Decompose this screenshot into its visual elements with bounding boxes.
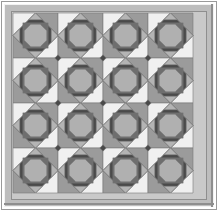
quilt-block — [58, 13, 103, 58]
quilt-block — [103, 13, 148, 58]
block-center-octagon — [114, 114, 137, 137]
quilt-block — [13, 13, 58, 58]
quilt-block — [13, 148, 58, 193]
quilt-block — [13, 58, 58, 103]
block-center-octagon — [159, 69, 182, 92]
block-center-octagon — [24, 24, 47, 47]
quilt-block — [148, 103, 193, 148]
block-center-octagon — [114, 24, 137, 47]
block-center-octagon — [114, 159, 137, 182]
quilt-block — [103, 58, 148, 103]
block-center-octagon — [114, 69, 137, 92]
quilt-block — [103, 103, 148, 148]
block-center-octagon — [159, 159, 182, 182]
block-center-octagon — [69, 69, 92, 92]
border-band-right-shadow — [211, 4, 213, 207]
border-band-bottom-shadow — [4, 203, 214, 205]
quilt-block — [103, 148, 148, 193]
block-center-octagon — [159, 114, 182, 137]
quilt-block — [58, 148, 103, 193]
quilt-block — [148, 13, 193, 58]
quilt-field — [12, 12, 206, 199]
block-center-octagon — [24, 114, 47, 137]
quilt-canvas — [0, 0, 218, 211]
quilt-block — [58, 103, 103, 148]
quilt-image — [0, 0, 218, 211]
block-center-octagon — [24, 159, 47, 182]
block-center-octagon — [69, 24, 92, 47]
block-center-octagon — [159, 24, 182, 47]
quilt-block — [58, 58, 103, 103]
block-center-octagon — [69, 114, 92, 137]
quilt-block — [148, 58, 193, 103]
block-center-octagon — [24, 69, 47, 92]
block-center-octagon — [69, 159, 92, 182]
quilt-block — [13, 103, 58, 148]
quilt-block — [148, 148, 193, 193]
